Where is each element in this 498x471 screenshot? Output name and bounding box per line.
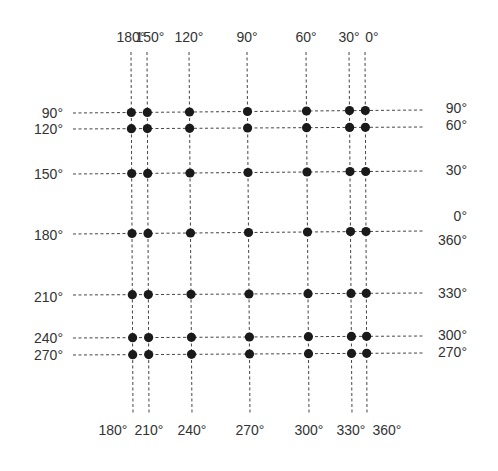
bottom-label: 330°	[337, 422, 366, 438]
left-label: 240°	[34, 330, 63, 346]
intersection-dot	[362, 289, 371, 298]
intersection-dot	[345, 106, 354, 115]
left-label: 180°	[34, 227, 63, 243]
intersection-dot	[361, 167, 370, 176]
intersection-dot	[347, 332, 356, 341]
right-label: 270°	[438, 344, 467, 360]
intersection-dot	[244, 228, 253, 237]
intersection-dot	[362, 349, 371, 358]
top-label: 0°	[365, 29, 378, 45]
intersection-dot	[143, 124, 152, 133]
intersection-dot	[346, 227, 355, 236]
left-label: 120°	[34, 121, 63, 137]
intersection-dot	[185, 107, 194, 116]
angle-grid-diagram: 180° 150° 120° 90° 60° 30° 0° 180° 210° …	[0, 0, 498, 471]
intersection-dot	[128, 333, 137, 342]
intersection-dot	[127, 229, 136, 238]
bottom-label: 270°	[236, 422, 265, 438]
intersection-dot	[143, 169, 152, 178]
intersection-dot	[347, 349, 356, 358]
intersection-dot	[185, 168, 194, 177]
bottom-label: 300°	[295, 422, 324, 438]
intersection-dot	[245, 349, 254, 358]
intersection-dot	[303, 227, 312, 236]
intersection-dot	[144, 290, 153, 299]
intersection-dot	[302, 167, 311, 176]
intersection-dot	[345, 167, 354, 176]
right-label: 330°	[438, 285, 467, 301]
bottom-label: 210°	[135, 422, 164, 438]
left-label: 90°	[42, 105, 63, 121]
right-label: 90°	[446, 100, 467, 116]
left-label: 270°	[34, 347, 63, 363]
right-label: 0°	[454, 208, 467, 224]
intersection-dot	[144, 350, 153, 359]
intersection-dot	[143, 229, 152, 238]
intersection-dot	[304, 349, 313, 358]
intersection-dot	[186, 290, 195, 299]
intersection-dot	[244, 289, 253, 298]
intersection-dot	[127, 124, 136, 133]
intersection-dot	[302, 106, 311, 115]
intersection-dot	[245, 332, 254, 341]
intersection-dots	[127, 106, 372, 359]
left-label: 150°	[34, 166, 63, 182]
top-label: 120°	[175, 29, 204, 45]
intersection-dot	[346, 289, 355, 298]
intersection-dot	[243, 107, 252, 116]
bottom-label: 180°	[99, 422, 128, 438]
intersection-dot	[187, 333, 196, 342]
intersection-dot	[143, 108, 152, 117]
intersection-dot	[243, 168, 252, 177]
intersection-dot	[345, 123, 354, 132]
bottom-label: 360°	[373, 422, 402, 438]
intersection-dot	[361, 106, 370, 115]
intersection-dot	[304, 332, 313, 341]
right-label: 300°	[438, 327, 467, 343]
intersection-dot	[185, 124, 194, 133]
intersection-dot	[187, 350, 196, 359]
intersection-dot	[128, 350, 137, 359]
intersection-dot	[127, 108, 136, 117]
right-label: 30°	[446, 162, 467, 178]
top-label: 150°	[136, 29, 165, 45]
intersection-dot	[303, 289, 312, 298]
intersection-dot	[362, 332, 371, 341]
right-label: 360°	[438, 232, 467, 248]
intersection-dot	[186, 228, 195, 237]
intersection-dot	[361, 123, 370, 132]
right-label: 60°	[446, 117, 467, 133]
top-label: 90°	[236, 29, 257, 45]
intersection-dot	[361, 227, 370, 236]
bottom-label: 240°	[178, 422, 207, 438]
intersection-dot	[127, 169, 136, 178]
top-label: 60°	[295, 29, 316, 45]
left-label: 210°	[34, 289, 63, 305]
intersection-dot	[128, 290, 137, 299]
intersection-dot	[302, 123, 311, 132]
top-label: 30°	[338, 29, 359, 45]
intersection-dot	[144, 333, 153, 342]
intersection-dot	[243, 123, 252, 132]
